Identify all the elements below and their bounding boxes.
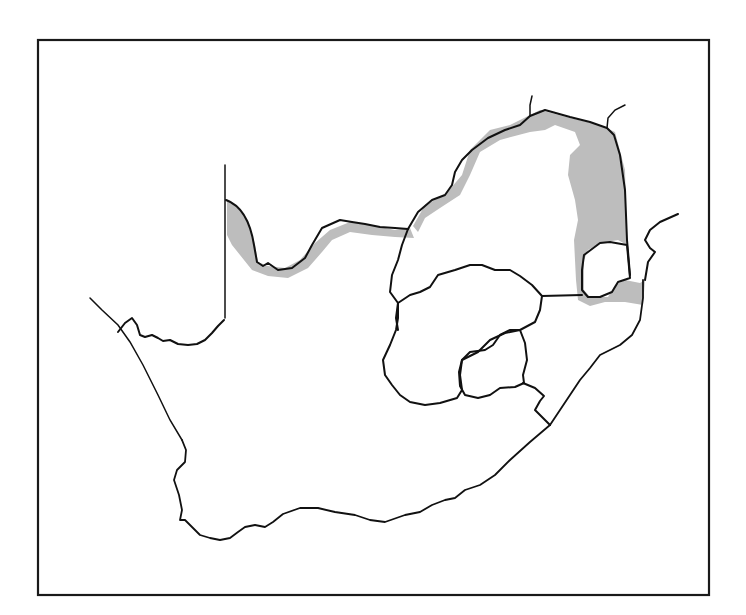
south-coast (174, 425, 550, 540)
mozambique-coast-border (645, 214, 678, 280)
central-region-outline (383, 265, 542, 405)
map-frame (38, 40, 709, 595)
lesotho-outline (459, 330, 527, 398)
orange-river-mouth-border (118, 318, 224, 345)
northeast-stub-1 (530, 96, 532, 116)
shaded-region-northeast (413, 110, 645, 306)
northeast-stub-2 (607, 105, 625, 128)
shaded-region-northwest (227, 199, 414, 278)
central-east-border (542, 295, 582, 296)
map-canvas (0, 0, 746, 615)
southeast-border (523, 383, 550, 425)
west-coast (90, 298, 182, 440)
